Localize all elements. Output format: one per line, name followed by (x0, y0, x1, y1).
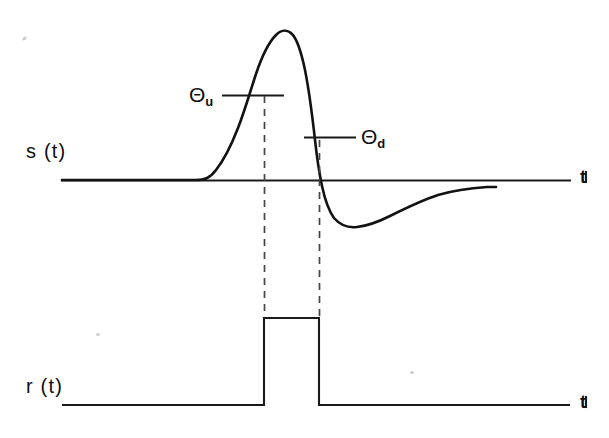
response-axis-label-text: r (t) (26, 375, 63, 397)
threshold-down-label: Θd (361, 126, 385, 150)
figure-canvas (0, 0, 609, 438)
threshold-down-subscript: d (377, 136, 385, 151)
signal-waveform (62, 31, 496, 227)
threshold-down-glyph: Θ (361, 125, 377, 148)
threshold-up-glyph: Θ (189, 83, 205, 106)
scan-speckle (410, 371, 414, 374)
signal-time-axis-label-text: t (580, 167, 586, 187)
response-panel (62, 318, 586, 407)
signal-axis-label: s (t) (26, 141, 66, 161)
signal-axis-label-text: s (t) (26, 140, 66, 162)
signal-time-axis-label: t (580, 168, 586, 186)
response-pulse-trace (62, 318, 570, 405)
threshold-up-subscript: u (205, 94, 213, 109)
threshold-up-label: Θu (189, 84, 213, 108)
signal-panel (62, 31, 586, 318)
response-axis-label: r (t) (26, 376, 63, 396)
scan-speckle (96, 333, 100, 336)
response-time-axis-label: t (580, 393, 586, 411)
signal-timing-figure: s (t) t Θu Θd r (t) t (0, 0, 609, 438)
response-time-axis-label-text: t (580, 392, 586, 412)
